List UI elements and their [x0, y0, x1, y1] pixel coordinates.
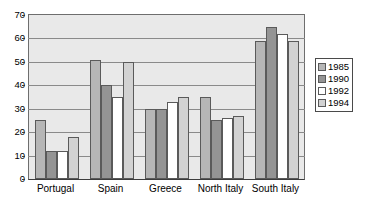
gridline-60 — [28, 38, 305, 39]
x-axis-labels: PortugalSpainGreeceNorth ItalySouth Ital… — [28, 182, 305, 202]
y-tick-mark — [22, 179, 25, 180]
x-tick-label-greece: Greece — [149, 182, 182, 196]
bar-group-north-italy — [194, 15, 249, 179]
y-tick-mark — [22, 85, 25, 86]
bar-north-italy-1990 — [211, 120, 222, 179]
bar-spain-1985 — [90, 60, 101, 179]
legend-swatch-icon — [318, 75, 326, 83]
bar-north-italy-1994 — [233, 116, 244, 179]
y-tick-mark — [22, 156, 25, 157]
legend-item-1985[interactable]: 1985 — [318, 61, 349, 73]
x-tick-label-south-italy: South Italy — [252, 182, 299, 196]
bars-layer — [29, 15, 304, 179]
bar-south-italy-1985 — [255, 41, 266, 179]
bar-portugal-1985 — [35, 120, 46, 179]
legend-swatch-icon — [318, 99, 326, 107]
bar-south-italy-1990 — [266, 27, 277, 179]
x-tick-label-portugal: Portugal — [37, 182, 74, 196]
legend-label: 1994 — [328, 98, 349, 108]
y-tick-mark — [22, 15, 25, 16]
bar-north-italy-1992 — [222, 118, 233, 179]
bar-north-italy-1985 — [200, 97, 211, 179]
y-tick-mark — [22, 38, 25, 39]
bar-spain-1992 — [112, 97, 123, 179]
legend-swatch-icon — [318, 87, 326, 95]
x-tick-label-north-italy: North Italy — [198, 182, 244, 196]
bar-portugal-1994 — [68, 137, 79, 179]
bar-south-italy-1994 — [288, 41, 299, 179]
bar-portugal-1990 — [46, 151, 57, 179]
y-tick-mark — [22, 62, 25, 63]
legend-label: 1985 — [328, 62, 349, 72]
y-tick-mark — [22, 109, 25, 110]
legend-label: 1992 — [328, 86, 349, 96]
y-tick-mark — [22, 132, 25, 133]
bar-south-italy-1992 — [277, 34, 288, 179]
bar-chart: 010203040506070 PortugalSpainGreeceNorth… — [0, 0, 368, 207]
plot-area — [28, 14, 305, 180]
bar-greece-1994 — [178, 97, 189, 179]
bar-greece-1992 — [167, 102, 178, 179]
bar-greece-1985 — [145, 109, 156, 179]
bar-portugal-1992 — [57, 151, 68, 179]
bar-group-greece — [139, 15, 194, 179]
bar-group-south-italy — [249, 15, 304, 179]
legend-item-1992[interactable]: 1992 — [318, 85, 349, 97]
legend-label: 1990 — [328, 74, 349, 84]
bar-greece-1990 — [156, 109, 167, 179]
bar-group-spain — [84, 15, 139, 179]
legend-item-1990[interactable]: 1990 — [318, 73, 349, 85]
y-axis: 010203040506070 — [0, 14, 25, 180]
legend-item-1994[interactable]: 1994 — [318, 97, 349, 109]
x-tick-label-spain: Spain — [98, 182, 124, 196]
bar-group-portugal — [29, 15, 84, 179]
legend-swatch-icon — [318, 63, 326, 71]
bar-spain-1990 — [101, 85, 112, 179]
chart-legend: 1985199019921994 — [315, 58, 353, 112]
bar-spain-1994 — [123, 62, 134, 179]
